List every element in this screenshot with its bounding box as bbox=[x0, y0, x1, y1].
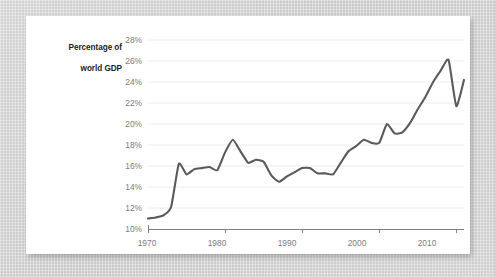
line-chart: Percentage of world GDP 28% 26% 24% 22% … bbox=[26, 16, 470, 254]
axis-lines bbox=[148, 225, 464, 230]
chart-card: Percentage of world GDP 28% 26% 24% 22% … bbox=[26, 16, 470, 254]
data-line-series-1 bbox=[148, 59, 464, 218]
plot-canvas bbox=[26, 16, 470, 254]
gridlines bbox=[148, 40, 464, 208]
